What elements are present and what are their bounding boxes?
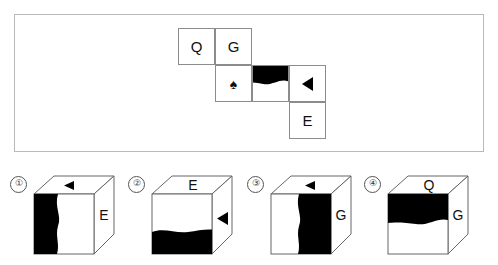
cube-svg-1: E [28, 172, 122, 258]
question-panel: Q G ♠ E [14, 14, 484, 152]
black-wave-top-icon [388, 194, 448, 224]
option-3-cube: G [265, 172, 359, 258]
option-2-top-face-label: E [188, 177, 197, 193]
option-4-number: ④ [364, 176, 381, 193]
answer-option-2[interactable]: ② E [124, 168, 242, 260]
option-4-cube: Q G [382, 172, 476, 258]
net-cell-e-label: E [302, 112, 312, 129]
net-cell-q-label: Q [191, 38, 203, 55]
net-cell-wave [252, 65, 289, 102]
answer-option-1[interactable]: ① E [6, 168, 124, 260]
spade-icon: ♠ [230, 77, 237, 91]
option-2-number: ② [128, 176, 145, 193]
cube-svg-4: Q G [382, 172, 476, 258]
net-cell-triangle [289, 65, 326, 102]
black-wave-top-icon [253, 66, 288, 101]
option-1-cube: E [28, 172, 122, 258]
net-cell-spade: ♠ [215, 65, 252, 102]
net-cell-e: E [289, 102, 326, 139]
triangle-left-icon [302, 77, 313, 91]
option-4-right-face-label: G [453, 207, 464, 223]
black-wave-right-icon [298, 194, 331, 254]
net-cell-g-label: G [228, 38, 240, 55]
option-3-right-face-label: G [336, 207, 347, 223]
net-cell-g: G [215, 28, 252, 65]
answer-option-3[interactable]: ③ G [243, 168, 361, 260]
black-wave-left-icon [34, 194, 59, 254]
option-3-number: ③ [247, 176, 264, 193]
option-4-top-face-label: Q [424, 177, 435, 193]
option-1-number: ① [10, 176, 27, 193]
black-wave-bottom-icon [152, 229, 212, 254]
option-2-cube: E [146, 172, 240, 258]
option-1-right-face-label: E [99, 207, 108, 223]
cube-svg-3: G [265, 172, 359, 258]
cube-net: Q G ♠ E [178, 28, 328, 138]
net-cell-q: Q [178, 28, 215, 65]
cube-svg-2: E [146, 172, 240, 258]
answer-option-4[interactable]: ④ Q G [360, 168, 478, 260]
